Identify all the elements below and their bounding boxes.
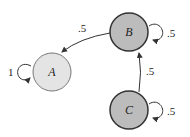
node-a: A	[33, 53, 71, 91]
edge-b-to-a: .5	[62, 22, 110, 52]
edge-c-to-b-label: .5	[146, 65, 155, 77]
edge-c-to-b: .5	[139, 53, 155, 92]
node-a-label: A	[47, 65, 56, 79]
self-loop-b-label: .5	[167, 27, 176, 39]
self-loop-b: .5	[149, 24, 176, 40]
self-loop-c: .5	[149, 102, 176, 118]
self-loop-a-label: 1	[8, 66, 14, 78]
node-c: C	[110, 91, 148, 129]
node-b: B	[110, 13, 148, 51]
markov-diagram: .5 .5 A 1 B .5 C .5	[0, 0, 190, 137]
self-loop-a: 1	[8, 64, 31, 80]
node-c-label: C	[125, 103, 134, 117]
node-b-label: B	[125, 25, 133, 39]
self-loop-c-label: .5	[167, 105, 176, 117]
edge-b-to-a-label: .5	[78, 22, 87, 34]
